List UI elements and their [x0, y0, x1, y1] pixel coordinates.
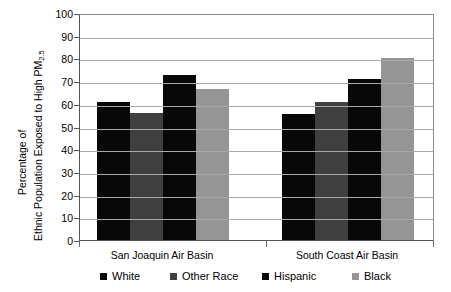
y-tick-label: 0: [43, 236, 73, 247]
bar: [282, 114, 315, 240]
legend-item[interactable]: Other Race: [170, 270, 238, 282]
x-axis-group-separator-tick: [266, 241, 267, 247]
gridline: [80, 106, 433, 107]
y-tick-label: 80: [43, 54, 73, 65]
y-tick-mark: [74, 37, 79, 38]
bar: [348, 79, 381, 240]
gridline: [80, 174, 433, 175]
chart-legend: WhiteOther RaceHispanicBlack: [0, 268, 451, 288]
x-axis-category-label: San Joaquin Air Basin: [87, 249, 237, 261]
y-tick-label: 100: [43, 9, 73, 20]
y-tick-label: 60: [43, 100, 73, 111]
legend-swatch-icon: [262, 273, 269, 280]
gridline: [80, 197, 433, 198]
bar: [196, 89, 229, 240]
legend-label: Black: [364, 270, 391, 282]
plot-area: [79, 14, 434, 241]
legend-label: White: [112, 270, 140, 282]
gridline: [80, 219, 433, 220]
x-axis-end-tick: [433, 241, 434, 247]
y-tick-mark: [74, 14, 79, 15]
legend-item[interactable]: Black: [352, 270, 391, 282]
legend-swatch-icon: [352, 273, 359, 280]
y-tick-mark: [74, 150, 79, 151]
y-tick-label: 20: [43, 191, 73, 202]
bar-chart: Percentage of Ethnic Population Exposed …: [0, 0, 451, 292]
legend-label: Other Race: [182, 270, 238, 282]
bars-container: [80, 15, 433, 240]
y-axis-title-line-1: Percentage of: [16, 130, 28, 195]
y-tick-mark: [74, 218, 79, 219]
gridline: [80, 60, 433, 61]
y-tick-mark: [74, 59, 79, 60]
y-tick-label: 70: [43, 77, 73, 88]
y-tick-mark: [74, 82, 79, 83]
x-axis-category-label: South Coast Air Basin: [272, 249, 422, 261]
legend-item[interactable]: Hispanic: [262, 270, 316, 282]
y-tick-label: 30: [43, 168, 73, 179]
y-tick-label: 50: [43, 123, 73, 134]
legend-swatch-icon: [100, 273, 107, 280]
gridline: [80, 38, 433, 39]
y-tick-label: 90: [43, 32, 73, 43]
gridline: [80, 151, 433, 152]
bar: [163, 75, 196, 240]
legend-label: Hispanic: [274, 270, 316, 282]
x-axis-start-tick: [79, 241, 80, 247]
y-tick-label: 40: [43, 145, 73, 156]
y-tick-mark: [74, 105, 79, 106]
legend-swatch-icon: [170, 273, 177, 280]
legend-item[interactable]: White: [100, 270, 140, 282]
gridline: [80, 83, 433, 84]
bar: [130, 113, 163, 240]
y-tick-mark: [74, 196, 79, 197]
y-tick-mark: [74, 128, 79, 129]
y-tick-label: 10: [43, 213, 73, 224]
y-tick-mark: [74, 173, 79, 174]
bar: [381, 58, 414, 240]
gridline: [80, 129, 433, 130]
